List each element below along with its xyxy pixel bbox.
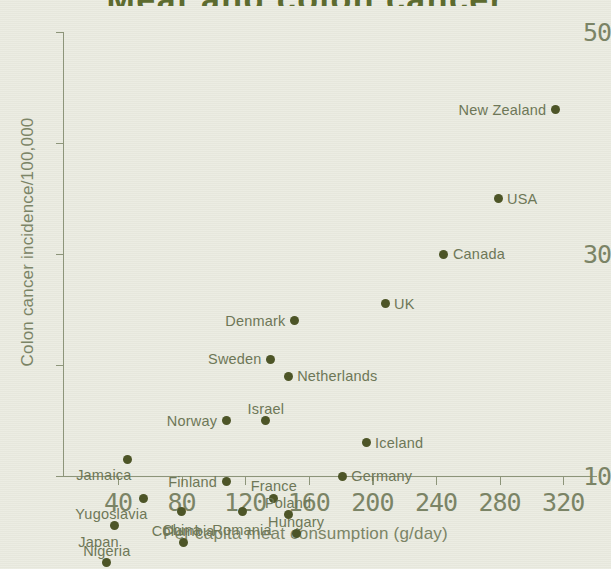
data-point[interactable] [494,194,503,203]
data-point[interactable] [139,494,148,503]
y-tick-40 [56,143,64,144]
data-point-label: USA [507,191,537,207]
data-point-label: Romania [212,522,271,538]
data-point[interactable] [290,316,299,325]
scatter-chart: Meat and colon cancer 103050 40801201602… [0,0,611,569]
x-tick-280 [500,477,501,485]
x-tick-label-240: 240 [406,488,466,517]
x-tick-160 [309,477,310,485]
data-point[interactable] [222,416,231,425]
data-point[interactable] [266,355,275,364]
data-point-label: Jamaica [76,467,131,483]
x-tick-120 [245,477,246,485]
data-point[interactable] [338,472,347,481]
y-axis-title: Colon cancer incidence/100,000 [18,42,38,442]
data-point-label: New Zealand [459,102,547,118]
data-point-label: Columbia [152,523,215,539]
x-tick-240 [436,477,437,485]
data-point[interactable] [362,438,371,447]
data-point[interactable] [292,529,301,538]
data-point-label: Canada [453,246,505,262]
data-point-label: Sweden [208,351,262,367]
data-point-label: Israel [248,401,285,417]
data-point[interactable] [439,250,448,259]
y-tick-30 [56,254,64,255]
data-point-label: Germany [351,468,412,484]
data-point-label: Netherlands [297,368,377,384]
data-point[interactable] [284,372,293,381]
data-point-label: Denmark [225,313,285,329]
data-point[interactable] [179,538,188,547]
data-point-label: Nigeria [83,543,130,559]
data-point-label: Iceland [375,435,423,451]
x-tick-label-280: 280 [470,488,530,517]
y-tick-50 [56,32,64,33]
y-tick-20 [56,365,64,366]
data-point[interactable] [123,455,132,464]
data-point[interactable] [222,477,231,486]
plot-area [64,32,597,476]
data-point-label: Finland [168,474,217,490]
data-point-label: UK [394,296,415,312]
data-point-label: Norway [167,413,217,429]
data-point-label: Yugoslavia [75,506,147,522]
y-tick-10 [56,476,64,477]
data-point-label: Hungary [268,514,324,530]
chart-title: Meat and colon cancer [0,0,611,6]
x-tick-label-320: 320 [533,488,593,517]
x-axis-line [63,476,597,477]
data-point[interactable] [551,105,560,114]
data-point-label: Poland [265,495,311,511]
data-point[interactable] [238,507,247,516]
data-point[interactable] [102,558,111,567]
x-tick-label-200: 200 [342,488,402,517]
x-tick-320 [563,477,564,485]
data-point-label: France [251,478,297,494]
